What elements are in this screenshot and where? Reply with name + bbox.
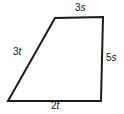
- side-label-right: 5s: [106, 52, 117, 63]
- side-label-bottom: 2t: [51, 100, 59, 111]
- side-label-top: 3s: [75, 2, 86, 13]
- side-label-right-variable: s: [112, 52, 117, 63]
- geometry-figure: 3s 3t 5s 2t: [0, 0, 124, 114]
- side-label-left: 3t: [13, 46, 21, 57]
- side-label-left-variable: t: [19, 46, 22, 57]
- side-label-bottom-variable: t: [57, 100, 60, 111]
- side-label-top-variable: s: [81, 2, 86, 13]
- quadrilateral-polygon: [8, 17, 103, 101]
